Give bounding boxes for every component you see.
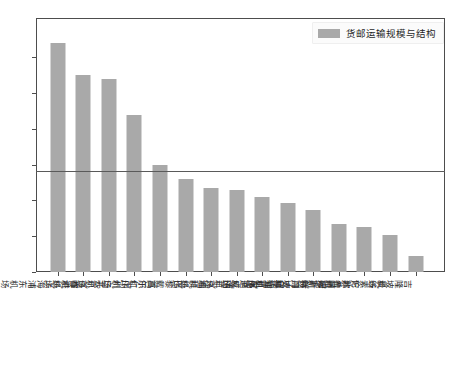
x-axis-tick-label: 北京首都机场 [96, 278, 122, 386]
x-axis-tick-mark [364, 272, 365, 276]
x-axis-tick-mark [58, 272, 59, 276]
x-axis-labels: 上海浦东机场香港机场北京首都机场广州白云机场首尔仁川机场巴黎戴高乐机场迪拜机场法… [36, 278, 445, 386]
x-axis-tick-mark [313, 272, 314, 276]
x-axis-tick-label: 迪拜机场 [198, 278, 224, 386]
x-axis-tick-mark [134, 272, 135, 276]
x-axis-tick-mark [109, 272, 110, 276]
x-axis-tick-label: 上海浦东机场 [45, 278, 71, 386]
bar-chart: 0.00.10.20.30.40.50.6 上海浦东机场香港机场北京首都机场广州… [0, 0, 454, 386]
x-axis-tick-mark [83, 272, 84, 276]
x-axis-tick-label: 香港机场 [71, 278, 97, 386]
x-axis-tick-mark [339, 272, 340, 276]
x-axis-tick-label: 巴黎戴高乐机场 [173, 278, 199, 386]
x-axis-tick-mark [288, 272, 289, 276]
x-axis-tick-mark [186, 272, 187, 276]
x-axis-tick-mark [416, 272, 417, 276]
legend[interactable]: 货邮运输规模与结构 [312, 22, 444, 44]
y-axis: 0.00.10.20.30.40.50.6 [0, 0, 36, 272]
x-axis-tick-label: 东京成田机场 [249, 278, 275, 386]
x-axis-tick-mark [211, 272, 212, 276]
x-axis-tick-label: 广州白云机场 [122, 278, 148, 386]
legend-swatch-icon [318, 29, 340, 38]
x-axis-tick-mark [262, 272, 263, 276]
x-axis-tick-mark [160, 272, 161, 276]
legend-label: 货邮运输规模与结构 [346, 26, 436, 40]
x-axis-tick-label: 新加坡樟宜机场 [301, 278, 327, 386]
x-axis-tick-label: 伦敦希思罗机场 [352, 278, 378, 386]
x-axis-tick-label: 吉隆坡机场 [403, 278, 429, 386]
x-axis-tick-label: 纽约肯尼迪机场 [275, 278, 301, 386]
x-axis-tick-label: 首尔仁川机场 [147, 278, 173, 386]
x-axis-tick-mark [237, 272, 238, 276]
x-axis-tick-label-text: 吉隆坡机场 [366, 278, 411, 287]
x-axis-tick-mark [390, 272, 391, 276]
x-axis-tick-label: 曼谷素万那普机场 [377, 278, 403, 386]
x-axis-tick-label: 阿姆斯特丹史基浦机场 [326, 278, 352, 386]
x-axis-tick-label: 法兰克福机场 [224, 278, 250, 386]
